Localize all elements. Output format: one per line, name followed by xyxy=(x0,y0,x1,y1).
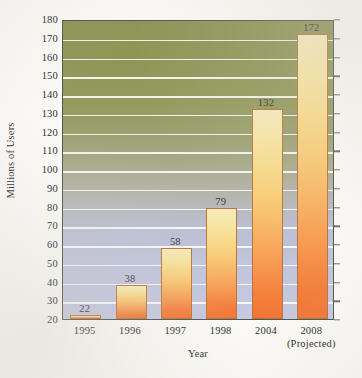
y-tick-label: 40 xyxy=(22,277,58,288)
right-axis-tick xyxy=(334,38,340,39)
bar[interactable] xyxy=(116,285,147,319)
gridline xyxy=(63,59,333,61)
bar-value-label: 38 xyxy=(108,274,152,285)
bar[interactable] xyxy=(161,248,192,319)
gridline xyxy=(63,40,333,42)
bar-value-label: 79 xyxy=(199,197,243,208)
bar[interactable] xyxy=(252,109,283,319)
bar[interactable] xyxy=(297,34,328,319)
gridline xyxy=(63,190,333,192)
gridline xyxy=(63,115,333,117)
x-tick-label-year: 1995 xyxy=(74,325,96,336)
y-tick-label: 170 xyxy=(22,34,58,45)
right-axis-tick xyxy=(334,263,340,264)
right-axis-tick xyxy=(334,169,340,170)
bar-value-label: 132 xyxy=(244,98,288,109)
bar-value-label: 22 xyxy=(63,304,107,315)
y-tick-label: 50 xyxy=(22,259,58,270)
y-tick-label: 100 xyxy=(22,165,58,176)
right-axis-ticks xyxy=(334,20,341,320)
y-axis-tick-labels: 1801701601501401301201101009080706050403… xyxy=(22,20,58,320)
right-axis-tick xyxy=(334,244,340,245)
bar[interactable] xyxy=(70,315,101,319)
y-tick-label: 150 xyxy=(22,71,58,82)
gridline xyxy=(63,152,333,154)
gridline xyxy=(63,171,333,173)
right-axis-tick xyxy=(334,188,340,189)
y-tick-label: 180 xyxy=(22,15,58,26)
right-axis-tick xyxy=(334,19,340,20)
bar-value-label: 58 xyxy=(153,237,197,248)
bar[interactable] xyxy=(206,208,237,319)
right-axis-tick xyxy=(334,132,340,133)
bar-chart-figure: Millions of Users 1801701601501401301201… xyxy=(0,0,362,378)
gridline xyxy=(63,284,333,286)
right-axis-tick xyxy=(334,94,340,95)
x-tick-label: 2008(Projected) xyxy=(283,324,339,350)
y-tick-label: 70 xyxy=(22,221,58,232)
y-tick-label: 30 xyxy=(22,296,58,307)
y-tick-label: 110 xyxy=(22,146,58,157)
right-axis-tick xyxy=(334,282,340,283)
right-axis-tick xyxy=(334,76,340,77)
x-tick-label-year: 2008 xyxy=(300,325,322,336)
x-tick-label-year: 1996 xyxy=(119,325,141,336)
y-axis-title: Millions of Users xyxy=(0,0,20,320)
right-axis-tick xyxy=(334,151,340,152)
y-tick-label: 60 xyxy=(22,240,58,251)
gridline xyxy=(63,134,333,136)
gridline xyxy=(63,265,333,267)
gridline xyxy=(63,77,333,79)
x-tick-label-year: 2004 xyxy=(255,325,277,336)
right-axis-tick xyxy=(334,301,340,302)
x-tick-label-year: 1997 xyxy=(164,325,186,336)
x-tick-label-year: 1998 xyxy=(210,325,232,336)
gridline xyxy=(63,227,333,229)
bar-value-label: 172 xyxy=(289,23,333,34)
right-axis-tick xyxy=(334,57,340,58)
gridline xyxy=(63,96,333,98)
x-axis-title: Year xyxy=(62,348,334,359)
plot-area xyxy=(62,20,334,320)
right-axis-tick xyxy=(334,319,340,320)
right-axis-tick xyxy=(334,207,340,208)
y-tick-label: 80 xyxy=(22,202,58,213)
right-axis-tick xyxy=(334,113,340,114)
y-tick-label: 160 xyxy=(22,52,58,63)
y-tick-label: 120 xyxy=(22,127,58,138)
x-axis-tick-labels: 199519961997199820042008(Projected) xyxy=(62,324,334,366)
y-tick-label: 140 xyxy=(22,90,58,101)
y-tick-label: 130 xyxy=(22,109,58,120)
gridline xyxy=(63,209,333,211)
right-axis-tick xyxy=(334,226,340,227)
y-axis-title-text: Millions of Users xyxy=(5,122,16,198)
y-tick-label: 90 xyxy=(22,184,58,195)
gridline xyxy=(63,246,333,248)
y-tick-label: 20 xyxy=(22,315,58,326)
